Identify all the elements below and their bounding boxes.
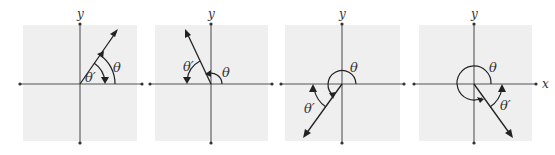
- theta-label: θ: [489, 60, 497, 75]
- axis-endpoint-dot: [412, 82, 415, 85]
- y-axis-label: y: [207, 7, 215, 21]
- theta-label: θ: [113, 60, 121, 75]
- panel-quadrant-4: y x θ θ′: [412, 7, 549, 145]
- axis-endpoint-dot: [270, 82, 273, 85]
- y-axis-label: y: [76, 7, 84, 21]
- y-axis-label: y: [338, 7, 346, 21]
- axis-endpoint-dot: [78, 22, 81, 25]
- theta-prime-label: θ′: [500, 98, 511, 113]
- panel-quadrant-1: y θ θ′: [18, 7, 143, 145]
- y-axis-label: y: [470, 7, 478, 21]
- theta-prime-label: θ′: [304, 101, 315, 116]
- axis-endpoint-dot: [340, 141, 343, 144]
- panel-quadrant-3: y θ θ′: [279, 7, 405, 145]
- theta-prime-label: θ′: [183, 59, 194, 74]
- axis-endpoint-dot: [140, 82, 143, 85]
- panel-background: [419, 25, 532, 141]
- panel-quadrant-2: y θ θ′: [148, 7, 273, 145]
- axis-endpoint-dot: [209, 141, 212, 144]
- theta-label: θ: [350, 60, 358, 75]
- axis-endpoint-dot: [78, 141, 81, 144]
- theta-label: θ: [222, 65, 230, 80]
- axis-endpoint-dot: [472, 141, 475, 144]
- axis-endpoint-dot: [209, 22, 212, 25]
- x-axis-label: x: [542, 77, 549, 91]
- theta-prime-label: θ′: [85, 70, 96, 85]
- axis-endpoint-dot: [402, 82, 405, 85]
- reference-angle-diagram: y θ θ′ y θ θ′: [0, 0, 555, 155]
- axis-endpoint-dot: [279, 82, 282, 85]
- axis-endpoint-dot: [472, 22, 475, 25]
- axis-endpoint-dot: [148, 82, 151, 85]
- axis-endpoint-dot: [18, 82, 21, 85]
- axis-endpoint-dot: [534, 82, 537, 85]
- axis-endpoint-dot: [340, 22, 343, 25]
